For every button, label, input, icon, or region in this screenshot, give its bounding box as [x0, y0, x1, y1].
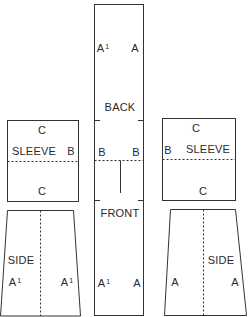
label-left-side: SIDE: [8, 255, 34, 266]
label-left-side-a1-right: A1: [61, 277, 74, 288]
label-right-sleeve-c-bottom: C: [199, 186, 207, 197]
label-back: BACK: [105, 102, 136, 113]
label-front: FRONT: [101, 208, 140, 219]
label-b-right: B: [132, 147, 140, 158]
label-left-sleeve-c-top: C: [38, 125, 46, 136]
label-a-top: A: [131, 43, 139, 54]
label-left-sleeve-b: B: [67, 146, 75, 157]
label-left-side-a1-left: A1: [9, 277, 22, 288]
label-right-sleeve: SLEEVE: [186, 144, 230, 155]
label-right-sleeve-b: B: [164, 145, 172, 156]
label-right-sleeve-c-top: C: [192, 123, 200, 134]
label-left-sleeve: SLEEVE: [12, 146, 56, 157]
label-right-side: SIDE: [208, 255, 234, 266]
label-left-sleeve-c-bottom: C: [38, 186, 46, 197]
label-a1-bottom: A1: [98, 278, 111, 289]
label-right-side-a-right: A: [231, 277, 239, 288]
label-a1-top: A1: [97, 43, 110, 54]
label-b-left: B: [98, 147, 106, 158]
label-a-bottom: A: [133, 278, 141, 289]
label-right-side-a-left: A: [171, 277, 179, 288]
pattern-diagram: [0, 0, 248, 317]
